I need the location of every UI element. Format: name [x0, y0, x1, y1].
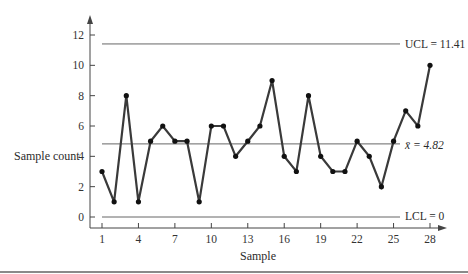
data-point [415, 123, 420, 128]
x-tick-label: 13 [242, 233, 254, 245]
data-point [269, 78, 274, 83]
y-tick-label: 2 [78, 181, 84, 193]
data-point [342, 169, 347, 174]
data-point [184, 139, 189, 144]
data-point [233, 154, 238, 159]
data-point [209, 123, 214, 128]
x-tick-label: 25 [388, 233, 400, 245]
data-point [112, 199, 117, 204]
data-point [136, 199, 141, 204]
x-tick-label: 28 [424, 233, 436, 245]
y-tick-label: 10 [73, 59, 85, 71]
data-point [306, 93, 311, 98]
data-point [124, 93, 129, 98]
data-point [282, 154, 287, 159]
y-axis-arrow-icon [87, 15, 93, 24]
data-point [245, 139, 250, 144]
y-tick-label: 12 [73, 29, 85, 41]
y-tick-label: 0 [78, 211, 84, 223]
data-point [403, 108, 408, 113]
data-point [221, 123, 226, 128]
x-tick-label: 19 [315, 233, 327, 245]
data-point [318, 154, 323, 159]
x-tick-label: 7 [172, 233, 178, 245]
lcl-label: LCL = 0 [405, 210, 444, 222]
x-tick-label: 1 [99, 233, 105, 245]
center-line-label: x̄ = 4.82 [405, 139, 444, 151]
data-point [355, 139, 360, 144]
x-tick-label: 16 [278, 233, 290, 245]
data-point [172, 139, 177, 144]
data-point [379, 184, 384, 189]
y-tick-label: 8 [78, 90, 84, 102]
data-point [330, 169, 335, 174]
data-point [99, 169, 104, 174]
x-axis-label: Sample [240, 249, 276, 264]
x-tick-label: 4 [136, 233, 142, 245]
data-point [367, 154, 372, 159]
data-point [148, 139, 153, 144]
data-line [102, 65, 430, 202]
data-point [160, 123, 165, 128]
ucl-label: UCL = 11.41 [405, 38, 465, 50]
bottom-divider [0, 271, 468, 273]
data-point [257, 123, 262, 128]
y-tick-label: 6 [78, 120, 84, 132]
control-chart: 02468101214710131619222528 [0, 0, 468, 274]
x-tick-label: 10 [206, 233, 218, 245]
data-point [197, 199, 202, 204]
data-point [427, 63, 432, 68]
data-point [391, 139, 396, 144]
data-point [294, 169, 299, 174]
y-axis-label: Sample count [14, 149, 80, 164]
x-tick-label: 22 [351, 233, 363, 245]
x-axis-arrow-icon [438, 225, 447, 231]
